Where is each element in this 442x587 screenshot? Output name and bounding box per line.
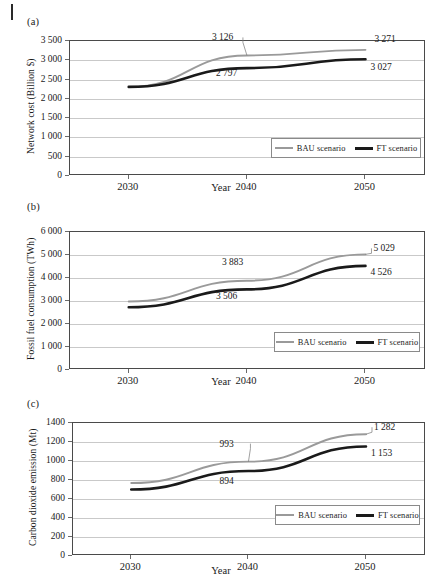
x-axis-title: Year <box>0 565 442 576</box>
y-tick-label: 200 <box>0 531 65 541</box>
y-tick-mark <box>68 479 72 480</box>
data-label-bau-2050: 1 282 <box>374 422 395 432</box>
y-tick-mark <box>65 156 69 157</box>
y-tick-mark <box>65 79 69 80</box>
legend-swatch-ft-icon <box>356 341 374 344</box>
y-tick-mark <box>65 98 69 99</box>
legend-label-bau: BAU scenario <box>298 511 347 520</box>
line-ft-scenario <box>131 446 366 489</box>
legend-item-bau[interactable]: BAU scenario <box>276 338 347 347</box>
y-tick-mark <box>68 460 72 461</box>
legend-label-ft: FT scenario <box>377 144 418 153</box>
y-tick-mark <box>68 536 72 537</box>
y-tick-label: 2 000 <box>0 318 62 328</box>
y-tick-label: 1 500 <box>0 112 62 122</box>
y-tick-mark <box>68 422 72 423</box>
y-tick-mark <box>65 136 69 137</box>
legend-label-ft: FT scenario <box>378 511 419 520</box>
chart-panel-a: (a)Network cost (Billion $)05001 0001 50… <box>0 0 442 197</box>
label-leader-line <box>365 248 371 254</box>
label-leader-line <box>248 444 250 462</box>
y-tick-mark <box>65 175 69 176</box>
y-tick-mark <box>68 555 72 556</box>
y-tick-label: 1200 <box>0 436 65 446</box>
x-tick-mark <box>364 175 365 179</box>
y-tick-mark <box>65 231 69 232</box>
y-tick-mark <box>65 254 69 255</box>
y-tick-label: 4 000 <box>0 272 62 282</box>
y-tick-mark <box>65 40 69 41</box>
legend-item-bau[interactable]: BAU scenario <box>276 511 347 520</box>
y-tick-mark <box>65 277 69 278</box>
y-tick-label: 3 500 <box>0 35 62 45</box>
chart-legend: BAU scenarioFT scenario <box>275 505 420 525</box>
data-label-ft-2050: 3 027 <box>370 62 391 72</box>
y-tick-mark <box>65 369 69 370</box>
x-tick-mark <box>128 175 129 179</box>
x-tick-mark <box>247 555 248 559</box>
x-tick-mark <box>130 555 131 559</box>
data-label-bau-2050: 5 029 <box>373 243 394 253</box>
y-tick-label: 2 500 <box>0 74 62 84</box>
y-tick-label: 0 <box>0 170 62 180</box>
y-tick-label: 600 <box>0 493 65 503</box>
chart-panel-b: (b)Fossil fuel consumption (TWh)01 0002 … <box>0 195 442 392</box>
x-tick-mark <box>365 555 366 559</box>
data-label-ft-2040: 2 797 <box>216 68 237 78</box>
y-tick-mark <box>68 517 72 518</box>
y-tick-label: 800 <box>0 474 65 484</box>
line-bau-scenario <box>129 254 366 301</box>
legend-swatch-bau-icon <box>276 341 294 343</box>
line-ft-scenario <box>129 266 366 307</box>
x-axis-title: Year <box>0 182 442 193</box>
line-ft-scenario <box>129 59 366 87</box>
legend-label-bau: BAU scenario <box>298 338 347 347</box>
y-tick-label: 0 <box>0 550 65 560</box>
y-tick-mark <box>68 441 72 442</box>
data-label-bau-2050: 3 271 <box>374 34 395 44</box>
y-tick-label: 6 000 <box>0 226 62 236</box>
chart-legend: BAU scenarioFT scenario <box>274 332 420 352</box>
data-label-ft-2040: 894 <box>219 476 233 486</box>
chart-panel-c: (c)Carbon dioxide emission (Mt)020040060… <box>0 390 442 587</box>
data-label-bau-2040: 993 <box>219 439 233 449</box>
panel-letter-b: (b) <box>27 201 40 212</box>
y-tick-label: 1 000 <box>0 131 62 141</box>
legend-swatch-ft-icon <box>355 147 373 150</box>
y-tick-label: 1400 <box>0 417 65 427</box>
legend-swatch-bau-icon <box>276 514 294 516</box>
y-tick-label: 3 000 <box>0 54 62 64</box>
y-tick-mark <box>68 498 72 499</box>
data-label-ft-2040: 3 506 <box>216 291 237 301</box>
chart-legend: BAU scenarioFT scenario <box>271 138 421 158</box>
y-tick-mark <box>65 300 69 301</box>
x-tick-mark <box>364 369 365 373</box>
y-tick-mark <box>65 59 69 60</box>
series-lines <box>73 423 426 556</box>
y-tick-label: 400 <box>0 512 65 522</box>
y-tick-label: 5 000 <box>0 249 62 259</box>
legend-label-bau: BAU scenario <box>297 144 346 153</box>
legend-item-bau[interactable]: BAU scenario <box>275 144 346 153</box>
y-tick-label: 500 <box>0 151 62 161</box>
legend-item-ft[interactable]: FT scenario <box>355 144 418 153</box>
y-tick-label: 1000 <box>0 455 65 465</box>
y-tick-mark <box>65 117 69 118</box>
legend-item-ft[interactable]: FT scenario <box>356 338 419 347</box>
y-tick-label: 2 000 <box>0 93 62 103</box>
plot-area <box>72 422 425 555</box>
y-tick-mark <box>65 346 69 347</box>
legend-item-ft[interactable]: FT scenario <box>356 511 419 520</box>
data-label-ft-2050: 4 526 <box>370 267 391 277</box>
panel-letter-c: (c) <box>27 398 39 409</box>
data-label-ft-2050: 1 153 <box>371 448 392 458</box>
label-leader-line <box>366 427 372 434</box>
y-tick-label: 0 <box>0 364 62 374</box>
data-label-bau-2040: 3 883 <box>222 257 243 267</box>
x-tick-mark <box>246 369 247 373</box>
x-axis-title: Year <box>0 376 442 387</box>
y-tick-label: 1 000 <box>0 341 62 351</box>
legend-swatch-bau-icon <box>275 147 293 149</box>
x-tick-mark <box>246 175 247 179</box>
legend-label-ft: FT scenario <box>378 338 419 347</box>
